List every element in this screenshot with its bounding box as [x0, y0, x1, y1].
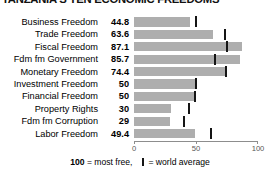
economic-freedoms-chart: TANZANIA'S TEN ECONOMIC FREEDOMS Busines…: [0, 0, 280, 176]
legend-max-value: 100: [70, 157, 84, 167]
row-label: Labor Freedom: [35, 128, 98, 140]
world-average-tick: [183, 116, 185, 127]
row-plot: [134, 78, 258, 90]
row-plot: [134, 53, 258, 65]
row-value: 29: [103, 115, 129, 127]
row-label: Financial Freedom: [22, 90, 98, 102]
chart-row: Property Rights30: [0, 103, 280, 115]
row-value: 44.8: [103, 16, 129, 28]
world-average-tick-icon: [142, 158, 144, 166]
row-label: Fiscal Freedom: [35, 41, 98, 53]
row-value: 49.4: [103, 128, 129, 140]
chart-legend: 100 = most free, = world average: [0, 157, 280, 167]
row-value: 63.6: [103, 28, 129, 40]
value-bar: [134, 79, 196, 88]
row-plot: [134, 115, 258, 127]
value-bar: [134, 30, 213, 39]
chart-row: Investment Freedom50: [0, 78, 280, 90]
row-value: 50: [103, 90, 129, 102]
row-label: Trade Freedom: [35, 28, 98, 40]
row-label: Monetary Freedom: [20, 66, 98, 78]
row-value: 50: [103, 78, 129, 90]
chart-row: Monetary Freedom74.4: [0, 66, 280, 78]
legend-most-free-text: = most free,: [87, 157, 133, 167]
row-value: 30: [103, 103, 129, 115]
axis-tick-label: 50: [192, 144, 200, 153]
value-bar: [134, 104, 171, 113]
chart-row: Financial Freedom50: [0, 90, 280, 102]
legend-world-average-text: = world average: [148, 157, 209, 167]
chart-row: Fdm fm Corruption29: [0, 115, 280, 127]
value-bar: [134, 17, 190, 26]
value-bar: [134, 129, 195, 138]
world-average-tick: [194, 91, 196, 102]
row-plot: [134, 66, 258, 78]
row-label: Fdm fm Government: [14, 53, 98, 65]
row-label: Property Rights: [35, 103, 98, 115]
row-value: 74.4: [103, 66, 129, 78]
chart-row: Business Freedom44.8: [0, 16, 280, 28]
row-label: Fdm fm Corruption: [21, 115, 98, 127]
row-plot: [134, 28, 258, 40]
world-average-tick: [188, 103, 190, 114]
axis-tick-label: 100: [252, 144, 265, 153]
axis-tick-label: 0: [132, 144, 136, 153]
row-plot: [134, 90, 258, 102]
chart-row: Trade Freedom63.6: [0, 28, 280, 40]
row-plot: [134, 103, 258, 115]
world-average-tick: [214, 54, 216, 65]
world-average-tick: [224, 29, 226, 40]
chart-rows: Business Freedom44.8Trade Freedom63.6Fis…: [0, 16, 280, 140]
world-average-tick: [195, 78, 197, 89]
chart-row: Fdm fm Government85.7: [0, 53, 280, 65]
world-average-tick: [210, 128, 212, 139]
chart-row: Labor Freedom49.4: [0, 128, 280, 140]
value-bar: [134, 92, 196, 101]
chart-row: Fiscal Freedom87.1: [0, 41, 280, 53]
row-label: Investment Freedom: [14, 78, 98, 90]
world-average-tick: [225, 66, 227, 77]
world-average-tick: [226, 41, 228, 52]
value-bar: [134, 117, 170, 126]
row-label: Business Freedom: [21, 16, 98, 28]
row-plot: [134, 41, 258, 53]
row-plot: [134, 128, 258, 140]
value-bar: [134, 55, 240, 64]
row-value: 85.7: [103, 53, 129, 65]
value-bar: [134, 67, 226, 76]
chart-title: TANZANIA'S TEN ECONOMIC FREEDOMS: [2, 0, 280, 5]
world-average-tick: [195, 16, 197, 27]
row-value: 87.1: [103, 41, 129, 53]
row-plot: [134, 16, 258, 28]
